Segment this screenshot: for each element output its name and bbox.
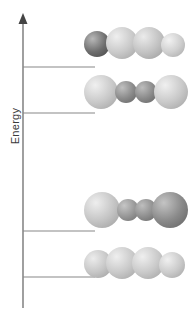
orbital-lobe-dark	[152, 192, 188, 228]
orbital-two-node	[84, 70, 194, 116]
orbital-lobe-light	[154, 75, 188, 109]
orbital-lobe-light	[84, 75, 118, 109]
orbital-lobe-light	[161, 33, 185, 57]
orbital-one-node	[84, 188, 194, 234]
axis-arrowhead-icon	[19, 13, 28, 24]
axis-label-energy: Energy	[9, 91, 21, 161]
orbital-three-node	[84, 22, 194, 68]
orbital-lobe-dark	[115, 81, 137, 103]
orbital-lobe-light	[159, 252, 185, 278]
energy-level-diagram: Energy	[0, 0, 195, 319]
orbital-zero-node	[84, 242, 194, 288]
orbital-lobe-light	[84, 192, 120, 228]
